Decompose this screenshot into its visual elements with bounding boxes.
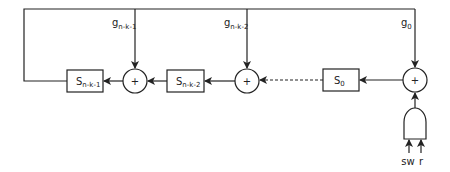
adder-1-symbol: + [131, 76, 139, 87]
tap-label-2: gn-k-2 [224, 17, 248, 31]
and-gate [404, 108, 426, 139]
tap-label-3: g0 [401, 17, 412, 31]
input-label-sw: sw [401, 156, 414, 167]
adder-3-symbol: + [411, 75, 419, 86]
lfsr-diagram: gn-k-1 gn-k-2 g0 Sn-k-1 + Sn-k-2 + S0 + … [0, 0, 450, 172]
adder-2-symbol: + [243, 76, 251, 87]
tap-label-1: gn-k-1 [112, 17, 136, 31]
input-label-r: r [419, 156, 424, 167]
